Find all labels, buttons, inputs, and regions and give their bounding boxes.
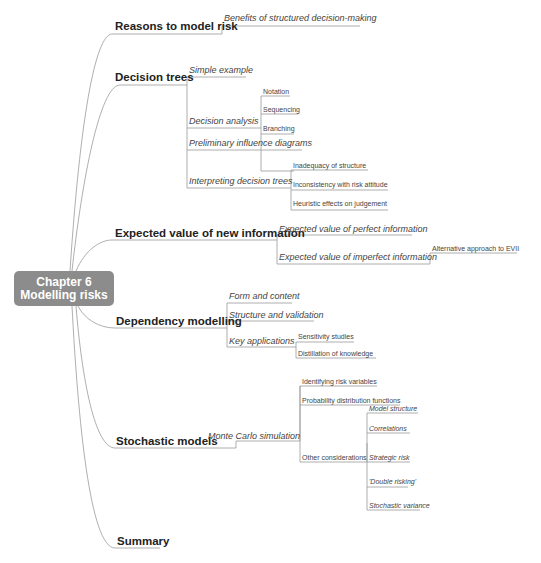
- node-preliminary-influence-diagrams[interactable]: Preliminary influence diagrams: [189, 139, 312, 148]
- node-alternative-approach-evii[interactable]: Alternative approach to EVII: [432, 245, 519, 252]
- node-distillation-of-knowledge[interactable]: Distillation of knowledge: [298, 350, 373, 357]
- node-branching[interactable]: Branching: [263, 125, 295, 132]
- node-other-considerations[interactable]: Other considerations: [302, 454, 367, 461]
- node-stochastic-variance[interactable]: Stochastic variance: [369, 502, 430, 509]
- node-evpi[interactable]: Expected value of perfect information: [279, 225, 428, 234]
- node-sequencing[interactable]: Sequencing: [263, 106, 300, 113]
- root-line-2: Modelling risks: [14, 289, 114, 302]
- node-double-risking[interactable]: 'Double risking': [369, 478, 416, 485]
- branch-dependency-modelling[interactable]: Dependency modelling: [116, 316, 242, 328]
- node-notation[interactable]: Notation: [263, 88, 289, 95]
- node-form-and-content[interactable]: Form and content: [229, 292, 300, 301]
- node-interpreting-decision-trees[interactable]: Interpreting decision trees: [189, 177, 293, 186]
- node-probability-distribution-functions[interactable]: Probability distribution functions: [302, 397, 400, 404]
- branch-expected-value[interactable]: Expected value of new information: [115, 228, 305, 240]
- node-monte-carlo-simulation[interactable]: Monte Carlo simulation: [208, 432, 300, 441]
- mind-map: Chapter 6 Modelling risks Reasons to mod…: [0, 0, 541, 563]
- node-correlations[interactable]: Correlations: [369, 425, 407, 432]
- node-inadequacy-of-structure[interactable]: Inadequacy of structure: [293, 162, 366, 169]
- root-line-1: Chapter 6: [14, 276, 114, 289]
- node-simple-example[interactable]: Simple example: [189, 66, 253, 75]
- node-key-applications[interactable]: Key applications: [229, 337, 295, 346]
- branch-summary[interactable]: Summary: [117, 536, 169, 548]
- branch-reasons-to-model-risk[interactable]: Reasons to model risk: [115, 21, 238, 33]
- node-strategic-risk[interactable]: Strategic risk: [369, 454, 409, 461]
- node-identifying-risk-variables[interactable]: Identifying risk variables: [302, 378, 377, 385]
- node-decision-analysis[interactable]: Decision analysis: [189, 117, 259, 126]
- node-heuristic-effects[interactable]: Heuristic effects on judgement: [293, 200, 387, 207]
- node-inconsistency-risk-attitude[interactable]: Inconsistency with risk attitude: [293, 181, 388, 188]
- root-node[interactable]: Chapter 6 Modelling risks: [14, 271, 114, 306]
- node-evii[interactable]: Expected value of imperfect information: [279, 253, 437, 262]
- node-model-structure[interactable]: Model structure: [369, 405, 417, 412]
- branch-stochastic-models[interactable]: Stochastic models: [116, 436, 218, 448]
- node-benefits[interactable]: Benefits of structured decision-making: [224, 14, 377, 23]
- branch-decision-trees[interactable]: Decision trees: [115, 72, 194, 84]
- node-structure-and-validation[interactable]: Structure and validation: [229, 311, 324, 320]
- node-sensitivity-studies[interactable]: Sensitivity studies: [298, 333, 354, 340]
